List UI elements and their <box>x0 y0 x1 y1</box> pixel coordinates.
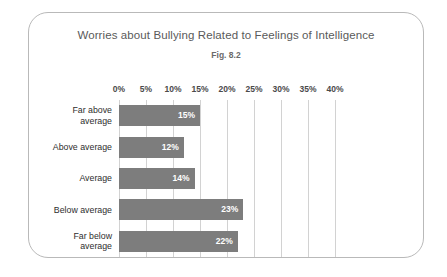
bar-row: 15% <box>119 105 335 126</box>
category-label: Above average <box>24 137 112 158</box>
x-axis-tick-labels: 0%5%10%15%20%25%30%35%40% <box>119 84 335 98</box>
bar-value-label: 12% <box>162 137 179 158</box>
category-label-line: Far above <box>72 105 112 116</box>
x-axis-tick-label: 25% <box>245 84 262 94</box>
bar: 15% <box>119 105 200 126</box>
bar-value-label: 22% <box>216 231 233 252</box>
bar-row: 22% <box>119 231 335 252</box>
bar: 23% <box>119 199 243 220</box>
x-axis-tick-label: 20% <box>218 84 235 94</box>
bars-group: 15%12%14%23%22% <box>119 100 335 257</box>
x-axis-tick-label: 10% <box>164 84 181 94</box>
x-axis-tick-label: 35% <box>299 84 316 94</box>
category-label-line: Far below <box>73 231 112 242</box>
bar-row: 23% <box>119 199 335 220</box>
bar-value-label: 15% <box>178 105 195 126</box>
bar-row: 14% <box>119 168 335 189</box>
chart-subtitle: Fig. 8.2 <box>29 50 423 60</box>
x-axis-tick-label: 0% <box>113 84 125 94</box>
category-label: Far belowaverage <box>24 231 112 252</box>
y-axis-category-labels: Far aboveaverageAbove averageAverageBelo… <box>29 100 117 257</box>
x-axis-tick-label: 15% <box>191 84 208 94</box>
plot-area: 15%12%14%23%22% <box>119 100 335 257</box>
category-label: Far aboveaverage <box>24 105 112 126</box>
category-label-line: average <box>80 241 112 252</box>
x-axis-tick-label: 40% <box>326 84 343 94</box>
bar: 14% <box>119 168 195 189</box>
bar-row: 12% <box>119 137 335 158</box>
category-label-line: Average <box>79 173 112 184</box>
x-axis-tick-label: 5% <box>140 84 152 94</box>
gridline <box>335 100 336 257</box>
chart-title: Worries about Bullying Related to Feelin… <box>29 29 423 41</box>
category-label: Below average <box>24 199 112 220</box>
category-label: Average <box>24 168 112 189</box>
category-label-line: average <box>80 116 112 127</box>
x-axis-tick-label: 30% <box>272 84 289 94</box>
figure-card: Worries about Bullying Related to Feelin… <box>28 12 424 258</box>
bar: 22% <box>119 231 238 252</box>
bar-value-label: 23% <box>221 199 238 220</box>
bar: 12% <box>119 137 184 158</box>
category-label-line: Below average <box>54 205 112 216</box>
bar-value-label: 14% <box>173 168 190 189</box>
category-label-line: Above average <box>53 142 112 153</box>
